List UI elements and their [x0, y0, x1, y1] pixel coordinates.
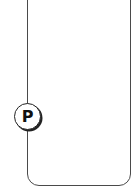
diagram-canvas: P — [0, 0, 137, 194]
port-label: P — [22, 109, 34, 125]
container-box — [27, 0, 131, 186]
port-circle-p: P — [14, 103, 41, 130]
